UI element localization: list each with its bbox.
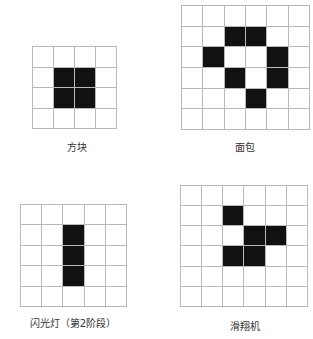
dead-cell <box>33 88 54 109</box>
dead-cell <box>42 266 63 286</box>
dead-cell <box>223 186 244 206</box>
dead-cell <box>202 287 223 307</box>
loaf-label: 面包 <box>235 139 255 154</box>
dead-cell <box>106 287 127 307</box>
dead-cell <box>85 225 106 245</box>
dead-cell <box>96 68 117 89</box>
dead-cell <box>96 88 117 109</box>
alive-cell <box>225 68 246 89</box>
dead-cell <box>223 267 244 287</box>
dead-cell <box>63 287 84 307</box>
dead-cell <box>202 186 223 206</box>
dead-cell <box>85 287 106 307</box>
dead-cell <box>202 206 223 226</box>
dead-cell <box>267 27 288 48</box>
dead-cell <box>21 225 42 245</box>
alive-cell <box>266 226 287 246</box>
dead-cell <box>202 267 223 287</box>
alive-cell <box>63 225 84 245</box>
dead-cell <box>246 6 267 27</box>
dead-cell <box>203 109 224 130</box>
dead-cell <box>246 68 267 89</box>
dead-cell <box>75 47 96 68</box>
dead-cell <box>225 6 246 27</box>
dead-cell <box>182 6 203 27</box>
dead-cell <box>244 267 265 287</box>
dead-cell <box>182 109 203 130</box>
block-grid <box>32 46 117 129</box>
dead-cell <box>225 109 246 130</box>
dead-cell <box>63 205 84 225</box>
alive-cell <box>63 246 84 266</box>
dead-cell <box>289 68 310 89</box>
dead-cell <box>181 287 202 307</box>
dead-cell <box>223 226 244 246</box>
dead-cell <box>181 267 202 287</box>
dead-cell <box>75 109 96 130</box>
alive-cell <box>54 68 75 89</box>
alive-cell <box>223 206 244 226</box>
dead-cell <box>266 206 287 226</box>
alive-cell <box>267 47 288 68</box>
dead-cell <box>42 246 63 266</box>
dead-cell <box>203 27 224 48</box>
dead-cell <box>289 6 310 27</box>
dead-cell <box>266 186 287 206</box>
dead-cell <box>33 68 54 89</box>
dead-cell <box>244 186 265 206</box>
dead-cell <box>85 246 106 266</box>
dead-cell <box>181 186 202 206</box>
dead-cell <box>96 109 117 130</box>
dead-cell <box>182 68 203 89</box>
dead-cell <box>287 246 308 266</box>
alive-cell <box>246 89 267 110</box>
dead-cell <box>267 109 288 130</box>
dead-cell <box>33 47 54 68</box>
dead-cell <box>21 205 42 225</box>
dead-cell <box>266 267 287 287</box>
alive-cell <box>267 68 288 89</box>
alive-cell <box>246 27 267 48</box>
dead-cell <box>203 68 224 89</box>
dead-cell <box>181 226 202 246</box>
dead-cell <box>289 89 310 110</box>
dead-cell <box>106 246 127 266</box>
dead-cell <box>225 89 246 110</box>
dead-cell <box>202 226 223 246</box>
alive-cell <box>54 88 75 109</box>
dead-cell <box>289 27 310 48</box>
dead-cell <box>266 287 287 307</box>
dead-cell <box>289 47 310 68</box>
dead-cell <box>244 287 265 307</box>
alive-cell <box>244 226 265 246</box>
alive-cell <box>244 246 265 266</box>
dead-cell <box>244 206 265 226</box>
dead-cell <box>96 47 117 68</box>
alive-cell <box>75 68 96 89</box>
dead-cell <box>182 47 203 68</box>
dead-cell <box>203 89 224 110</box>
dead-cell <box>287 206 308 226</box>
alive-cell <box>75 88 96 109</box>
dead-cell <box>225 47 246 68</box>
dead-cell <box>42 225 63 245</box>
dead-cell <box>267 6 288 27</box>
dead-cell <box>203 6 224 27</box>
glider-label: 滑翔机 <box>230 318 260 333</box>
dead-cell <box>202 246 223 266</box>
dead-cell <box>267 89 288 110</box>
alive-cell <box>225 27 246 48</box>
dead-cell <box>289 109 310 130</box>
dead-cell <box>85 266 106 286</box>
dead-cell <box>106 266 127 286</box>
dead-cell <box>223 287 244 307</box>
dead-cell <box>287 226 308 246</box>
dead-cell <box>33 109 54 130</box>
dead-cell <box>54 47 75 68</box>
alive-cell <box>203 47 224 68</box>
dead-cell <box>106 225 127 245</box>
glider-grid <box>180 185 308 307</box>
dead-cell <box>246 109 267 130</box>
alive-cell <box>63 266 84 286</box>
dead-cell <box>21 246 42 266</box>
